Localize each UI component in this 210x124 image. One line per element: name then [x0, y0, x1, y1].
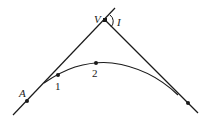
vertex-v-marker: [103, 18, 107, 22]
label-point-1: 1: [55, 80, 61, 92]
label-i: I: [116, 16, 122, 28]
circular-curve: [44, 63, 178, 96]
point-1-dot: [56, 73, 60, 77]
label-point-2: 2: [92, 67, 98, 79]
point-2-dot: [94, 61, 98, 65]
end-point-dot: [186, 101, 190, 105]
forward-tangent-line: [105, 20, 198, 113]
label-a: A: [18, 87, 26, 99]
curve-diagram: A V I 1 2: [0, 0, 210, 124]
point-a-dot: [25, 99, 29, 103]
